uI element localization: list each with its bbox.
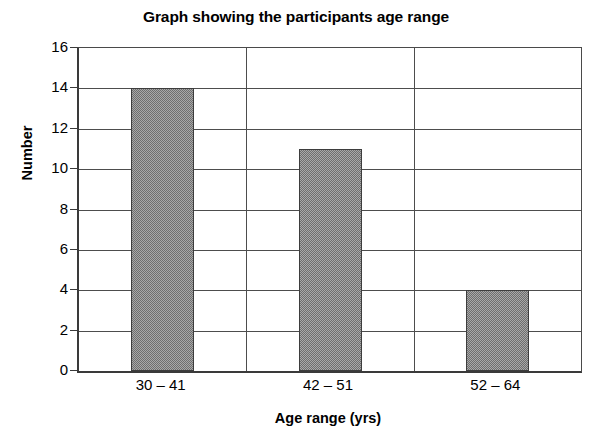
y-axis-tick-label: 10 [24, 160, 68, 175]
y-axis-tick [70, 128, 77, 129]
y-axis-tick-label: 6 [24, 241, 68, 256]
x-axis-title: Age range (yrs) [77, 410, 579, 426]
chart-title: Graph showing the participants age range [0, 8, 592, 26]
y-axis-tick [70, 209, 77, 210]
plot-area [77, 47, 582, 373]
y-axis-tick-label: 14 [24, 79, 68, 94]
y-axis-tick-label: 8 [24, 201, 68, 216]
y-axis-tick-label: 2 [24, 322, 68, 337]
x-axis-category-label: 52 – 64 [412, 376, 579, 393]
y-axis-tick-label: 0 [24, 362, 68, 377]
bar [466, 290, 529, 371]
bar [131, 88, 194, 371]
y-axis-tick [70, 47, 77, 48]
bar-chart: Graph showing the participants age range… [0, 0, 592, 442]
x-axis-category-label: 30 – 41 [77, 376, 244, 393]
y-axis-tick [70, 87, 77, 88]
category-divider [246, 48, 247, 371]
bar [299, 149, 362, 371]
y-axis-tick [70, 168, 77, 169]
category-divider [414, 48, 415, 371]
y-axis-tick [70, 370, 77, 371]
y-axis-tick [70, 249, 77, 250]
y-axis-tick-label: 4 [24, 281, 68, 296]
y-axis-tick [70, 289, 77, 290]
y-axis-tick [70, 330, 77, 331]
x-axis-category-label: 42 – 51 [244, 376, 411, 393]
y-axis-tick-label: 12 [24, 120, 68, 135]
y-axis-tick-label: 16 [24, 39, 68, 54]
y-axis-tick-labels: 0246810121416 [12, 0, 68, 442]
